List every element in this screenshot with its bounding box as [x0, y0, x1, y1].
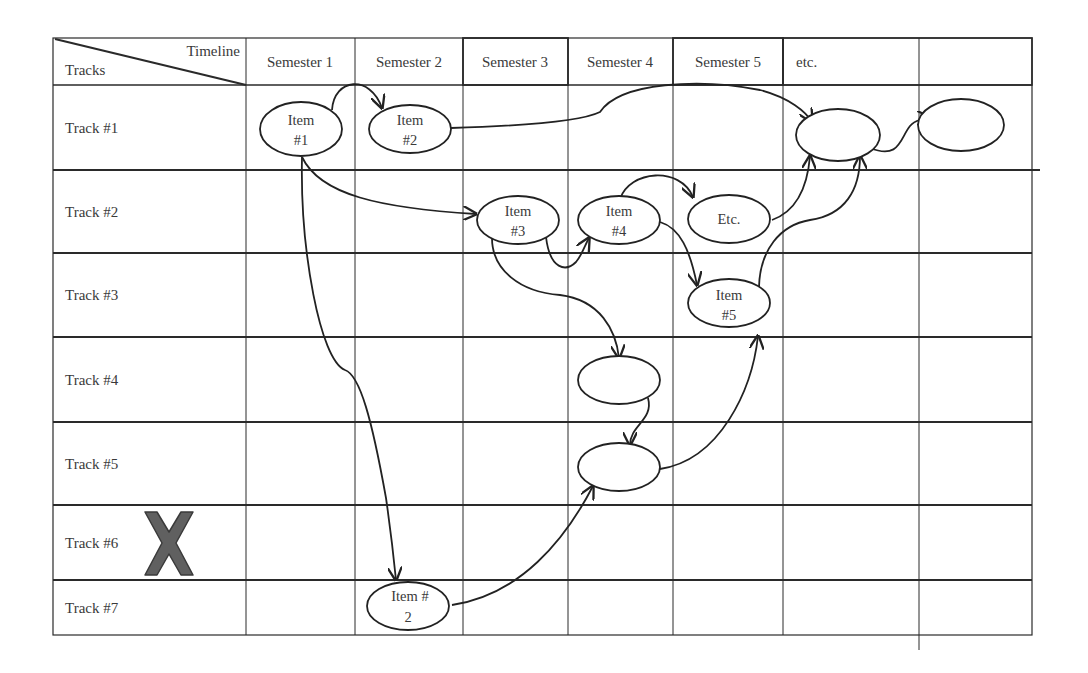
svg-text:#2: #2	[403, 132, 418, 148]
track-label-7: Track #7	[65, 600, 119, 616]
svg-text:Etc.: Etc.	[718, 211, 741, 227]
node-track1-etc[interactable]	[796, 109, 880, 161]
node-track7-item-2[interactable]: Item # 2	[367, 582, 449, 630]
x-mark-icon	[145, 512, 193, 575]
node-item-2[interactable]: Item #2	[369, 105, 451, 153]
column-header-semester-1: Semester 1	[267, 54, 333, 70]
corner-timeline-label: Timeline	[186, 43, 240, 59]
node-etc[interactable]: Etc.	[688, 195, 770, 243]
svg-text:2: 2	[404, 609, 411, 625]
nodes: Item #1 Item #2 Item #3 Item #4 Etc.	[260, 99, 1004, 630]
track-label-2: Track #2	[65, 204, 118, 220]
node-item-1[interactable]: Item #1	[260, 102, 342, 156]
svg-text:Item #: Item #	[391, 588, 428, 604]
column-header-semester-3: Semester 3	[482, 54, 548, 70]
svg-text:#1: #1	[294, 132, 309, 148]
column-header-etc: etc.	[796, 54, 817, 70]
track-label-1: Track #1	[65, 120, 118, 136]
column-header-semester-2: Semester 2	[376, 54, 442, 70]
svg-text:Item: Item	[716, 287, 743, 303]
edges	[302, 84, 930, 605]
track-timeline-diagram: Timeline Tracks Semester 1 Semester 2 Se…	[0, 0, 1088, 673]
column-header-semester-5: Semester 5	[695, 54, 761, 70]
column-header-semester-4: Semester 4	[587, 54, 654, 70]
svg-text:Item: Item	[606, 203, 633, 219]
svg-text:Item: Item	[397, 112, 424, 128]
svg-text:#4: #4	[612, 223, 627, 239]
svg-text:#5: #5	[722, 307, 737, 323]
node-track5[interactable]	[578, 443, 660, 491]
track-label-6: Track #6	[65, 535, 119, 551]
grid	[53, 38, 1040, 650]
node-track1-last[interactable]	[918, 99, 1004, 151]
node-track4[interactable]	[578, 356, 660, 404]
svg-text:Item: Item	[288, 112, 315, 128]
svg-text:Item: Item	[505, 203, 532, 219]
node-item-5[interactable]: Item #5	[688, 279, 770, 327]
svg-text:#3: #3	[511, 223, 526, 239]
node-item-4[interactable]: Item #4	[578, 196, 660, 244]
node-item-3[interactable]: Item #3	[477, 196, 559, 244]
track-label-4: Track #4	[65, 372, 119, 388]
track-label-5: Track #5	[65, 456, 118, 472]
track-label-3: Track #3	[65, 287, 118, 303]
corner-tracks-label: Tracks	[65, 62, 105, 78]
